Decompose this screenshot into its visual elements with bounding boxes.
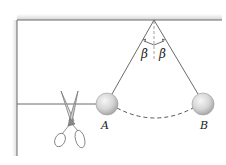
left-wall — [12, 20, 17, 156]
angle-label-right: β — [159, 47, 166, 61]
ball-A-label: A — [101, 119, 109, 132]
pendulum-diagram — [0, 0, 226, 165]
ceiling — [17, 14, 222, 20]
ball-B — [192, 93, 214, 115]
ball-A — [96, 93, 118, 115]
scissors-icon — [53, 91, 87, 149]
swing-arc — [117, 108, 193, 118]
angle-label-left: β — [141, 47, 148, 61]
ball-B-label: B — [200, 119, 208, 132]
